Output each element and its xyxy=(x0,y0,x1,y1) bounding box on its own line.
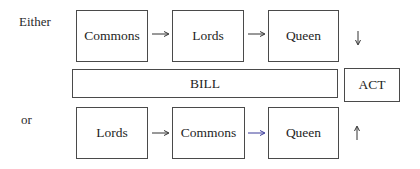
bottom-box-lords: Lords xyxy=(76,107,148,159)
top-box-commons: Commons xyxy=(76,10,148,62)
top-box-lords-label: Lords xyxy=(192,28,224,44)
down-arrow-icon xyxy=(353,30,363,46)
right-arrow-icon xyxy=(247,128,267,138)
up-arrow-icon xyxy=(352,125,362,141)
top-box-queen: Queen xyxy=(268,10,339,62)
right-arrow-icon xyxy=(151,29,171,39)
right-arrow-icon xyxy=(247,29,267,39)
bottom-box-commons: Commons xyxy=(172,107,245,159)
right-arrow-icon xyxy=(151,128,171,138)
bottom-box-commons-label: Commons xyxy=(181,125,237,141)
bottom-box-queen: Queen xyxy=(268,107,339,159)
or-label: or xyxy=(21,112,32,128)
top-box-commons-label: Commons xyxy=(84,28,140,44)
act-box: ACT xyxy=(344,68,400,102)
bottom-box-lords-label: Lords xyxy=(96,125,128,141)
act-label: ACT xyxy=(359,77,386,93)
top-box-queen-label: Queen xyxy=(286,28,321,44)
bill-box: BILL xyxy=(72,69,338,98)
either-label: Either xyxy=(19,14,51,30)
bill-label: BILL xyxy=(190,76,220,92)
top-box-lords: Lords xyxy=(172,10,244,62)
bottom-box-queen-label: Queen xyxy=(286,125,321,141)
